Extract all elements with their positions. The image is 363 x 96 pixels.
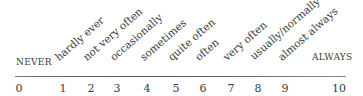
scale-number-4: 4 [144, 82, 151, 95]
scale-number-0: 0 [16, 82, 23, 95]
scale-number-3: 3 [114, 82, 121, 95]
scale-number-5: 5 [173, 82, 180, 95]
scale-number-6: 6 [200, 82, 207, 95]
scale-number-8: 8 [255, 82, 262, 95]
scale-number-10: 10 [332, 82, 346, 95]
scale-number-7: 7 [228, 82, 235, 95]
scale-number-1: 1 [60, 82, 67, 95]
always-label: ALWAYS [312, 52, 353, 62]
scale-number-9: 9 [282, 82, 289, 95]
frequency-rating-scale: NEVER ALWAYS hardly ever not very often … [0, 0, 363, 96]
scale-number-2: 2 [88, 82, 95, 95]
scale-axis-line [15, 76, 346, 77]
never-label: NEVER [16, 57, 52, 67]
